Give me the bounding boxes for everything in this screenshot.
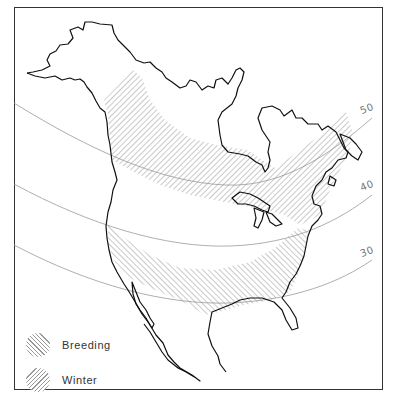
winter-range [108, 222, 308, 315]
winter-hatch-swatch-icon [26, 368, 50, 392]
breeding-range [104, 70, 352, 225]
breeding-hatch-swatch-icon [26, 333, 50, 357]
legend-label-winter: Winter [62, 374, 97, 386]
legend-item-breeding: Breeding [26, 333, 111, 357]
legend-label-breeding: Breeding [62, 339, 111, 351]
legend-item-winter: Winter [26, 368, 97, 392]
